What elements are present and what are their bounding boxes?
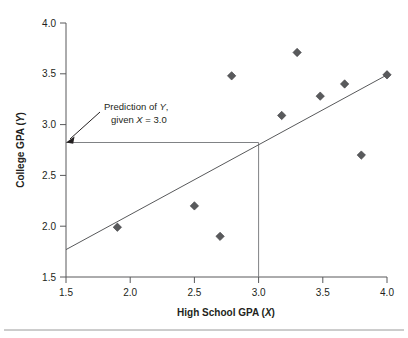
y-ticklabel-1: 2.0 (42, 221, 56, 232)
data-point-group (113, 48, 391, 240)
annotation-line2-pre: given (111, 114, 136, 125)
annotation-arrow-shaft (70, 112, 100, 139)
x-axis-title-post: ) (272, 307, 275, 318)
x-ticklabel-3: 3.0 (252, 287, 266, 298)
scatter-plot-figure: 1.5 2.0 2.5 3.0 3.5 4.0 1.5 2.0 2.5 3.0 … (0, 0, 408, 338)
data-point (357, 151, 365, 159)
annotation-line2-post: = 3.0 (143, 114, 167, 125)
data-point (340, 80, 348, 88)
y-ticklabel-5: 4.0 (42, 18, 56, 29)
annotation-arrow-head (66, 137, 75, 144)
data-point (190, 202, 198, 210)
data-point (113, 223, 121, 231)
plot-canvas: 1.5 2.0 2.5 3.0 3.5 4.0 1.5 2.0 2.5 3.0 … (0, 0, 408, 338)
data-point (293, 48, 301, 56)
x-axis-title: High School GPA (X) (177, 307, 275, 318)
y-axis-title-pre: College GPA ( (15, 122, 26, 188)
y-ticklabel-0: 1.5 (42, 272, 56, 283)
prediction-annotation-line2: given X = 3.0 (111, 114, 167, 125)
x-axis-title-pre: High School GPA ( (177, 307, 265, 318)
y-axis-title: College GPA (Y) (15, 112, 26, 188)
x-ticklabel-2: 2.5 (187, 287, 201, 298)
x-ticklabel-4: 3.5 (316, 287, 330, 298)
data-point (227, 72, 235, 80)
data-point (216, 232, 224, 240)
y-axis-title-post: ) (15, 112, 26, 115)
annotation-line1-post: , (166, 101, 169, 112)
annotation-line1-pre: Prediction of (104, 101, 159, 112)
y-ticklabel-2: 2.5 (42, 170, 56, 181)
x-ticklabel-5: 4.0 (380, 287, 394, 298)
data-point (316, 92, 324, 100)
y-ticklabel-3: 3.0 (42, 119, 56, 130)
y-ticklabel-4: 3.5 (42, 68, 56, 79)
data-point (383, 71, 391, 79)
data-point (278, 111, 286, 119)
prediction-annotation-line1: Prediction of Y, (104, 101, 168, 112)
x-ticklabel-0: 1.5 (59, 287, 73, 298)
x-ticklabel-1: 2.0 (123, 287, 137, 298)
